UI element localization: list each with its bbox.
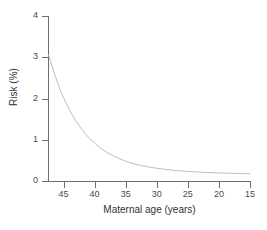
y-tick-label-0: 0 (16, 176, 38, 185)
x-tick-label-45: 45 (51, 190, 77, 199)
x-axis-title: Maternal age (years) (48, 205, 251, 215)
x-tick-45 (64, 182, 65, 188)
y-tick-4 (42, 16, 48, 17)
x-tick-25 (188, 182, 189, 188)
x-tick-40 (95, 182, 96, 188)
x-tick-20 (219, 182, 220, 188)
y-tick-label-2: 2 (16, 94, 38, 103)
x-tick-30 (157, 182, 158, 188)
x-tick-label-15: 15 (237, 190, 263, 199)
x-tick-label-30: 30 (144, 190, 170, 199)
plot-area (48, 16, 250, 181)
x-tick-label-25: 25 (175, 190, 201, 199)
x-tick-label-20: 20 (206, 190, 232, 199)
y-tick-2 (42, 99, 48, 100)
x-tick-label-40: 40 (82, 190, 108, 199)
x-tick-35 (126, 182, 127, 188)
y-tick-label-4: 4 (16, 11, 38, 20)
x-tick-label-35: 35 (113, 190, 139, 199)
y-tick-label-1: 1 (16, 135, 38, 144)
y-tick-0 (42, 181, 48, 182)
x-axis-line (48, 181, 251, 182)
chart-figure: 01234 45403530252015 Risk (%) Maternal a… (0, 0, 267, 230)
y-tick-3 (42, 57, 48, 58)
y-tick-label-3: 3 (16, 52, 38, 61)
y-tick-1 (42, 140, 48, 141)
x-tick-15 (250, 182, 251, 188)
y-axis-title: Risk (%) (9, 47, 19, 127)
